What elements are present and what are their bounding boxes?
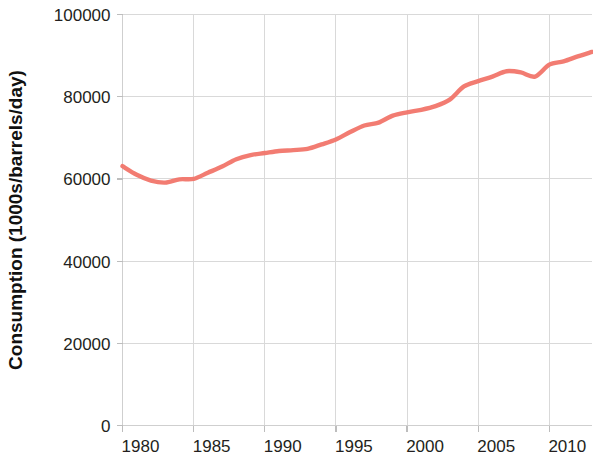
data-series-group: [123, 52, 593, 183]
y-axis-tick-labels: 020000400006000080000100000: [54, 6, 111, 436]
y-axis-title: Consumption (1000s/barrels/day): [5, 70, 26, 370]
y-tick-label: 60000: [63, 170, 110, 189]
x-tick-label: 1985: [193, 437, 231, 456]
x-tick-label: 2000: [406, 437, 444, 456]
series-line-0: [123, 52, 593, 183]
y-tick-label: 80000: [63, 88, 110, 107]
x-tick-marks: [123, 426, 550, 432]
y-tick-label: 20000: [63, 335, 110, 354]
line-chart: 020000400006000080000100000 198019851990…: [0, 0, 593, 464]
x-tick-label: 1995: [335, 437, 373, 456]
y-tick-label: 40000: [63, 253, 110, 272]
axis-lines: [123, 15, 593, 426]
chart-canvas: 020000400006000080000100000 198019851990…: [0, 0, 593, 464]
x-tick-label: 1990: [264, 437, 302, 456]
x-tick-label: 2010: [548, 437, 586, 456]
y-tick-label: 100000: [54, 6, 111, 25]
x-axis-tick-labels: 1980198519901995200020052010: [122, 437, 587, 456]
y-tick-marks: [117, 15, 123, 426]
x-tick-label: 2005: [477, 437, 515, 456]
x-tick-label: 1980: [122, 437, 160, 456]
y-tick-label: 0: [101, 417, 110, 436]
